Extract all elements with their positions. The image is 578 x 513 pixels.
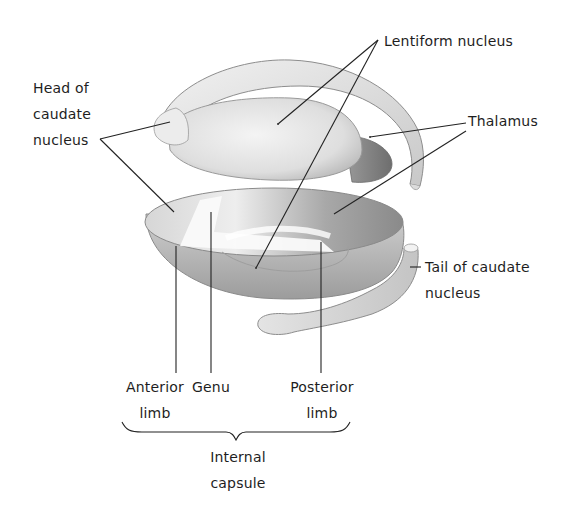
- label-thalamus: Thalamus: [468, 108, 538, 134]
- label-internal-capsule: Internal capsule: [196, 444, 280, 496]
- label-genu: Genu: [186, 374, 236, 400]
- diagram-canvas: Lentiform nucleus Head of caudate nucleu…: [0, 0, 578, 513]
- label-lentiform-nucleus: Lentiform nucleus: [384, 28, 513, 54]
- lentiform-upper: [168, 98, 362, 180]
- label-posterior-limb: Posterior limb: [280, 374, 364, 426]
- lower-section: [145, 188, 404, 299]
- label-tail-of-caudate-nucleus: Tail of caudate nucleus: [425, 254, 530, 306]
- upper-structure: [154, 60, 423, 190]
- label-head-of-caudate-nucleus: Head of caudate nucleus: [33, 75, 91, 153]
- label-anterior-limb: Anterior limb: [114, 374, 196, 426]
- caudate-head-upper: [154, 108, 188, 145]
